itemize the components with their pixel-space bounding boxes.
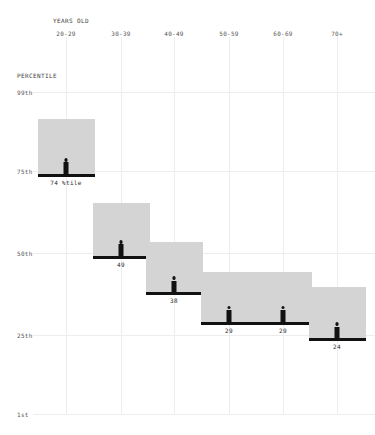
- person-icon-head: [281, 306, 284, 309]
- x-axis-tick-label: 30-39: [111, 30, 131, 37]
- x-axis-tick-label: 50-59: [219, 30, 239, 37]
- bar-baseline-50-59: [201, 322, 258, 325]
- gridline-horizontal: [33, 414, 375, 415]
- bar-baseline-30-39: [93, 256, 150, 259]
- x-axis-tick-label: 70+: [331, 30, 343, 37]
- value-label-30-39: 49: [117, 261, 125, 268]
- person-icon-body: [64, 162, 68, 174]
- value-label-50-59: 29: [225, 327, 233, 334]
- person-icon: [279, 306, 288, 322]
- value-label-20-29: 74 %tile: [50, 179, 81, 186]
- value-label-40-49: 38: [170, 297, 178, 304]
- y-axis-tick-label: 75th: [17, 167, 33, 174]
- person-icon: [170, 276, 179, 292]
- gridline-horizontal: [33, 253, 375, 254]
- person-icon-head: [172, 276, 175, 279]
- person-icon: [117, 240, 126, 256]
- gridline-vertical: [337, 37, 338, 415]
- y-axis-tick-label: 99th: [17, 89, 33, 96]
- gridline-vertical: [283, 37, 284, 415]
- gridline-horizontal: [33, 92, 375, 93]
- x-axis-tick-label: 20-29: [56, 30, 76, 37]
- bar-baseline-70+: [309, 338, 366, 341]
- value-label-60-69: 29: [279, 327, 287, 334]
- person-icon-head: [119, 240, 122, 243]
- x-axis-tick-label: 40-49: [164, 30, 184, 37]
- person-icon: [62, 158, 71, 174]
- bar-baseline-60-69: [255, 322, 312, 325]
- person-icon-body: [172, 281, 176, 293]
- person-icon-body: [335, 327, 339, 339]
- gridline-vertical: [174, 37, 175, 415]
- value-label-70+: 24: [333, 343, 341, 350]
- percentile-by-age-chart: YEARS OLD PERCENTILE 99th75th50th25th1st…: [0, 0, 375, 435]
- person-icon-head: [64, 158, 67, 161]
- y-axis-title: PERCENTILE: [17, 72, 57, 79]
- person-icon: [333, 322, 342, 338]
- person-icon: [225, 306, 234, 322]
- person-icon-body: [119, 244, 123, 256]
- person-icon-body: [281, 310, 285, 322]
- y-axis-tick-label: 25th: [17, 332, 33, 339]
- bar-baseline-20-29: [38, 174, 95, 177]
- x-axis-title: YEARS OLD: [53, 17, 89, 24]
- bar-baseline-40-49: [146, 292, 203, 295]
- y-axis-tick-label: 1st: [17, 411, 29, 418]
- person-icon-head: [335, 322, 338, 325]
- person-icon-body: [227, 310, 231, 322]
- y-axis-tick-label: 50th: [17, 250, 33, 257]
- gridline-vertical: [66, 37, 67, 415]
- person-icon-head: [227, 306, 230, 309]
- x-axis-tick-label: 60-69: [273, 30, 293, 37]
- gridline-vertical: [229, 37, 230, 415]
